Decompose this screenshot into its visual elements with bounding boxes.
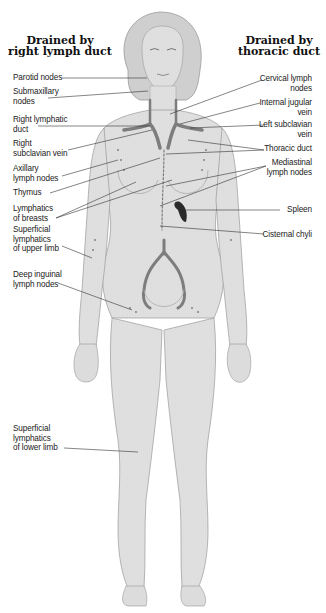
label-line: lymph nodes [13, 280, 62, 290]
label-internal-jugular-vein: Internal jugular vein [259, 98, 312, 117]
label-line: lymph nodes [267, 168, 312, 178]
label-line: nodes [260, 84, 312, 94]
label-right-subclavian-vein: Right subclavian vein [13, 139, 67, 158]
label-parotid-nodes: Parotid nodes [13, 73, 62, 83]
label-line: of breasts [13, 214, 53, 224]
heading-thoracic-duct: Drained by thoracic duct [232, 35, 326, 57]
right-foot [123, 586, 147, 606]
label-line: Mediastinal [267, 158, 312, 168]
label-submaxillary-nodes: Submaxillary nodes [13, 87, 59, 106]
label-line: of upper limb [13, 244, 59, 254]
label-deep-inguinal-lymph-nodes: Deep inguinal lymph nodes [13, 270, 62, 289]
label-line: subclavian vein [13, 149, 67, 159]
label-line: Right [13, 139, 67, 149]
label-line: nodes [13, 97, 59, 107]
label-line: Thymus [13, 188, 42, 198]
lymphatic-system-diagram: Drained by right lymph duct Drained by t… [0, 0, 326, 613]
label-superficial-lymphatics-lower-limb: Superficial lymphatics of lower limb [13, 424, 58, 453]
right-hand [74, 344, 98, 382]
left-arm [216, 128, 247, 346]
label-line: Cervical lymph [260, 74, 312, 84]
label-line: Superficial [13, 225, 59, 235]
neck [150, 86, 176, 112]
label-line: lymph nodes [13, 174, 58, 184]
label-line: Cisternal chyli [263, 230, 312, 240]
label-line: lymphatics [13, 434, 58, 444]
label-axillary-lymph-nodes: Axillary lymph nodes [13, 164, 58, 183]
label-line: of lower limb [13, 443, 58, 453]
label-line: vein [259, 108, 312, 118]
label-cervical-lymph-nodes: Cervical lymph nodes [260, 74, 312, 93]
label-line: Axillary [13, 164, 58, 174]
label-superficial-lymphatics-upper-limb: Superficial lymphatics of upper limb [13, 225, 59, 254]
label-line: Superficial [13, 424, 58, 434]
label-line: Parotid nodes [13, 73, 62, 83]
label-mediastinal-lymph-nodes: Mediastinal lymph nodes [267, 158, 312, 177]
label-thoracic-duct: Thoracic duct [264, 144, 312, 154]
heading-right-lymph-duct: Drained by right lymph duct [8, 35, 112, 57]
right-leg [110, 318, 162, 588]
label-right-lymphatic-duct: Right lymphatic duct [13, 115, 67, 134]
label-line: lymphatics [13, 235, 59, 245]
left-leg [164, 318, 216, 588]
label-line: vein [259, 130, 312, 140]
heading-line: right lymph duct [8, 46, 112, 57]
left-hand [227, 344, 251, 382]
left-foot [181, 586, 206, 606]
label-line: Thoracic duct [264, 144, 312, 154]
label-left-subclavian-vein: Left subclavian vein [259, 120, 312, 139]
right-arm [79, 128, 110, 346]
label-line: Right lymphatic [13, 115, 67, 125]
label-cisternal-chyli: Cisternal chyli [263, 230, 312, 240]
heading-line: thoracic duct [232, 46, 326, 57]
label-line: Lymphatics [13, 204, 53, 214]
label-line: Deep inguinal [13, 270, 62, 280]
label-line: duct [13, 125, 67, 135]
label-line: Internal jugular [259, 98, 312, 108]
label-thymus: Thymus [13, 188, 42, 198]
label-lymphatics-of-breasts: Lymphatics of breasts [13, 204, 53, 223]
label-line: Left subclavian [259, 120, 312, 130]
label-line: Submaxillary [13, 87, 59, 97]
label-line: Spleen [287, 205, 312, 215]
label-spleen: Spleen [287, 205, 312, 215]
torso [101, 110, 225, 318]
